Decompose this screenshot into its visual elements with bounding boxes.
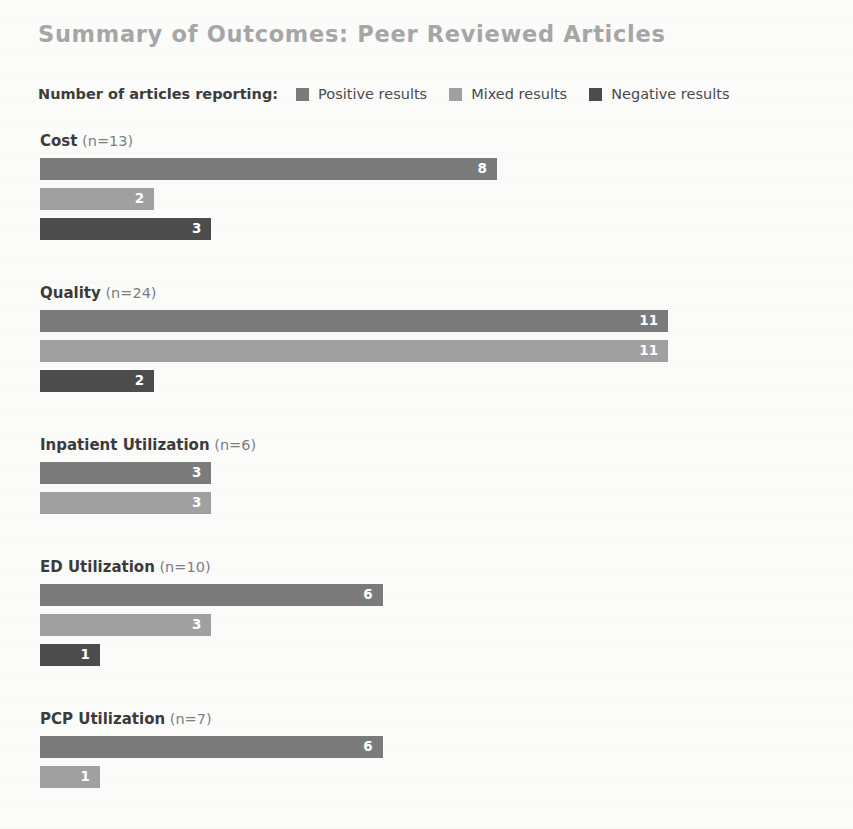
bar-group-label: Cost (n=13) (0, 132, 853, 150)
bar-row: 2 (40, 188, 853, 210)
bar-list: 823 (0, 158, 853, 240)
bar: 11 (40, 310, 668, 332)
bar-row: 3 (40, 492, 853, 514)
bar-value-label: 11 (639, 344, 658, 358)
bar: 3 (40, 218, 211, 240)
page-title: Summary of Outcomes: Peer Reviewed Artic… (38, 21, 666, 47)
bar-group: PCP Utilization (n=7)61 (0, 710, 853, 788)
bar-row: 6 (40, 736, 853, 758)
bar-group-count: (n=24) (101, 285, 157, 301)
bar: 11 (40, 340, 668, 362)
bar-value-label: 3 (192, 496, 201, 510)
bar-group: ED Utilization (n=10)631 (0, 558, 853, 666)
bar-group-count: (n=10) (155, 559, 211, 575)
bar-group-label: Inpatient Utilization (n=6) (0, 436, 853, 454)
legend-item-label: Mixed results (471, 86, 567, 102)
bar-list: 61 (0, 736, 853, 788)
legend-caption: Number of articles reporting: (38, 86, 278, 102)
bar-row: 3 (40, 462, 853, 484)
bar-group: Inpatient Utilization (n=6)33 (0, 436, 853, 514)
bar-group: Cost (n=13)823 (0, 132, 853, 240)
bar-group: Quality (n=24)11112 (0, 284, 853, 392)
bar-value-label: 3 (192, 618, 201, 632)
legend-item-positive: Positive results (296, 86, 427, 102)
legend-item-mixed: Mixed results (449, 86, 567, 102)
bar-row: 11 (40, 340, 853, 362)
legend-item-list: Positive resultsMixed resultsNegative re… (296, 86, 729, 102)
bar-group-label: Quality (n=24) (0, 284, 853, 302)
bar-group-count: (n=6) (210, 437, 257, 453)
chart-legend: Number of articles reporting: Positive r… (38, 86, 729, 102)
bar-value-label: 6 (363, 740, 372, 754)
bar-list: 631 (0, 584, 853, 666)
bar-row: 1 (40, 766, 853, 788)
bar-row: 8 (40, 158, 853, 180)
bar-group-label: PCP Utilization (n=7) (0, 710, 853, 728)
bar: 8 (40, 158, 497, 180)
bar-row: 3 (40, 218, 853, 240)
bar: 2 (40, 370, 154, 392)
legend-swatch-icon (296, 88, 309, 101)
bar-group-count: (n=13) (77, 133, 133, 149)
bar: 1 (40, 766, 100, 788)
bar-group-name: Quality (40, 284, 101, 302)
bar-group-count: (n=7) (165, 711, 212, 727)
bar-value-label: 2 (135, 374, 144, 388)
bar: 3 (40, 462, 211, 484)
bar-value-label: 2 (135, 192, 144, 206)
bar: 2 (40, 188, 154, 210)
bar-group-name: ED Utilization (40, 558, 155, 576)
legend-swatch-icon (449, 88, 462, 101)
bar-group-name: Cost (40, 132, 77, 150)
bar: 3 (40, 614, 211, 636)
legend-swatch-icon (589, 88, 602, 101)
bar-row: 2 (40, 370, 853, 392)
bar-value-label: 1 (81, 648, 90, 662)
bar-list: 11112 (0, 310, 853, 392)
bar-value-label: 3 (192, 222, 201, 236)
bar-value-label: 1 (81, 770, 90, 784)
bar: 1 (40, 644, 100, 666)
bar-list: 33 (0, 462, 853, 514)
bar-group-name: Inpatient Utilization (40, 436, 210, 454)
bar-row: 11 (40, 310, 853, 332)
legend-item-label: Positive results (318, 86, 427, 102)
bar: 6 (40, 584, 383, 606)
bar-value-label: 11 (639, 314, 658, 328)
bar-value-label: 8 (477, 162, 486, 176)
bar-value-label: 3 (192, 466, 201, 480)
bar-group-name: PCP Utilization (40, 710, 165, 728)
bar-row: 1 (40, 644, 853, 666)
bar: 6 (40, 736, 383, 758)
legend-item-negative: Negative results (589, 86, 729, 102)
bar: 3 (40, 492, 211, 514)
bar-group-list: Cost (n=13)823Quality (n=24)11112Inpatie… (0, 132, 853, 829)
bar-group-label: ED Utilization (n=10) (0, 558, 853, 576)
bar-row: 3 (40, 614, 853, 636)
bar-value-label: 6 (363, 588, 372, 602)
bar-row: 6 (40, 584, 853, 606)
legend-item-label: Negative results (611, 86, 729, 102)
